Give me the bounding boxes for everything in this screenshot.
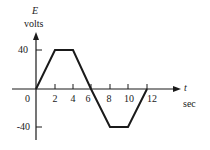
x-tick-label-8: 8 bbox=[107, 94, 112, 104]
y-axis-name: E bbox=[32, 6, 38, 16]
x-axis-unit: sec bbox=[183, 99, 196, 109]
x-axis-name: t bbox=[184, 83, 187, 93]
y-tick-label-40: 40 bbox=[4, 45, 28, 55]
x-tick-label-10: 10 bbox=[124, 94, 134, 104]
y-axis-unit: volts bbox=[24, 19, 43, 29]
x-tick-label-6: 6 bbox=[86, 94, 91, 104]
x-tick-label-2: 2 bbox=[53, 94, 58, 104]
x-tick-label-12: 12 bbox=[147, 94, 157, 104]
voltage-waveform-chart: E volts 40 -40 0 2 4 6 8 10 12 t sec bbox=[0, 0, 210, 150]
y-tick-label-neg40: -40 bbox=[6, 122, 30, 132]
origin-label: 0 bbox=[25, 94, 30, 104]
x-tick-label-4: 4 bbox=[71, 94, 76, 104]
x-axis-arrow-icon bbox=[173, 86, 181, 92]
y-axis-arrow-icon bbox=[33, 32, 39, 40]
x-ticks bbox=[55, 84, 147, 89]
